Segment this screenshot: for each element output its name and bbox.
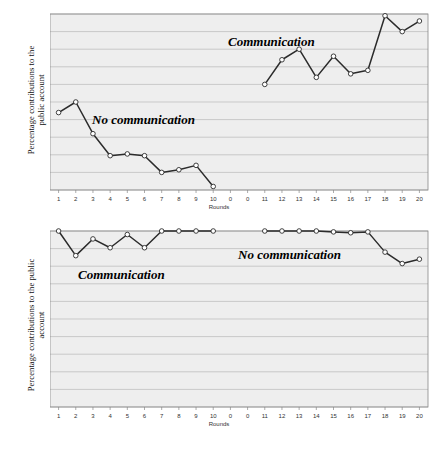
svg-text:0: 0 bbox=[246, 196, 250, 202]
annotation-communication-bottom: Communication bbox=[78, 267, 165, 283]
svg-text:5: 5 bbox=[126, 196, 130, 202]
svg-text:2: 2 bbox=[74, 196, 78, 202]
svg-text:0: 0 bbox=[229, 196, 233, 202]
svg-text:18: 18 bbox=[382, 413, 389, 419]
svg-text:20: 20 bbox=[416, 413, 423, 419]
svg-text:9: 9 bbox=[194, 413, 198, 419]
svg-text:8: 8 bbox=[177, 196, 181, 202]
chart-panel-bottom: Percentage contributions to the public a… bbox=[0, 215, 438, 452]
svg-text:19: 19 bbox=[399, 413, 406, 419]
svg-text:0: 0 bbox=[229, 413, 233, 419]
svg-text:10: 10 bbox=[210, 413, 217, 419]
svg-text:11: 11 bbox=[262, 196, 269, 202]
figure-two-line-charts: Percentage contributions to the public a… bbox=[0, 0, 438, 452]
svg-text:9: 9 bbox=[194, 196, 198, 202]
svg-text:1: 1 bbox=[57, 413, 61, 419]
svg-text:17: 17 bbox=[365, 413, 372, 419]
svg-text:16: 16 bbox=[347, 413, 354, 419]
svg-text:6: 6 bbox=[143, 413, 147, 419]
svg-text:6: 6 bbox=[143, 196, 147, 202]
annotation-communication-top: Communication bbox=[228, 34, 315, 50]
svg-text:13: 13 bbox=[296, 196, 303, 202]
svg-text:5: 5 bbox=[126, 413, 130, 419]
svg-text:1: 1 bbox=[57, 196, 61, 202]
svg-text:20: 20 bbox=[416, 196, 423, 202]
x-axis-title-bottom: Rounds bbox=[0, 421, 438, 427]
svg-text:17: 17 bbox=[365, 196, 372, 202]
svg-text:11: 11 bbox=[262, 413, 269, 419]
svg-text:3: 3 bbox=[91, 196, 95, 202]
svg-text:4: 4 bbox=[108, 196, 112, 202]
svg-text:15: 15 bbox=[330, 413, 337, 419]
annotation-no-communication-bottom: No communication bbox=[238, 247, 341, 263]
svg-text:19: 19 bbox=[399, 196, 406, 202]
svg-text:12: 12 bbox=[279, 196, 286, 202]
svg-text:7: 7 bbox=[160, 413, 164, 419]
svg-text:4: 4 bbox=[108, 413, 112, 419]
svg-text:0: 0 bbox=[246, 413, 250, 419]
y-axis-title-top-line1: Percentage contributions to the bbox=[26, 46, 36, 155]
y-axis-title-bottom-line2: account bbox=[36, 230, 46, 420]
svg-text:18: 18 bbox=[382, 196, 389, 202]
svg-text:3: 3 bbox=[91, 413, 95, 419]
y-axis-title-bottom-line1: Percentage contributions to the public bbox=[26, 259, 36, 392]
y-axis-title-bottom: Percentage contributions to the public a… bbox=[26, 230, 46, 420]
svg-text:14: 14 bbox=[313, 413, 320, 419]
svg-text:15: 15 bbox=[330, 196, 337, 202]
svg-text:8: 8 bbox=[177, 413, 181, 419]
svg-text:14: 14 bbox=[313, 196, 320, 202]
svg-text:7: 7 bbox=[160, 196, 164, 202]
svg-text:16: 16 bbox=[347, 196, 354, 202]
annotation-no-communication-top: No communication bbox=[92, 112, 195, 128]
y-axis-title-top-line2: public account bbox=[36, 10, 46, 190]
svg-text:2: 2 bbox=[74, 413, 78, 419]
svg-text:12: 12 bbox=[279, 413, 286, 419]
svg-text:10: 10 bbox=[210, 196, 217, 202]
x-axis-title-top: Rounds bbox=[0, 204, 438, 210]
y-axis-title-top: Percentage contributions to the public a… bbox=[26, 10, 46, 190]
svg-text:13: 13 bbox=[296, 413, 303, 419]
chart-panel-top: Percentage contributions to the public a… bbox=[0, 0, 438, 218]
